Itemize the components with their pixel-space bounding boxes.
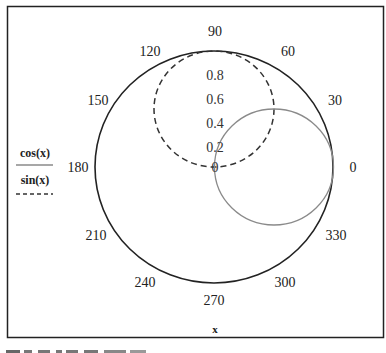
angle-tick: 90: [208, 24, 222, 39]
radial-tick: 0.6: [206, 92, 224, 107]
angle-tick: 0: [350, 160, 357, 175]
cos-series-curve: [215, 109, 334, 225]
polar-chart: 0.8 0.6 0.4 0.2 0 90 120 60 150 30 180 0…: [0, 0, 386, 353]
radial-tick: 0.8: [206, 68, 224, 83]
angle-tick: 150: [88, 93, 109, 108]
angle-tick: 30: [328, 93, 342, 108]
legend-label-cos: cos(x): [20, 146, 50, 160]
radial-tick: 0.4: [206, 116, 224, 131]
radial-tick: 0.2: [206, 140, 224, 155]
angle-tick: 240: [135, 275, 156, 290]
legend-label-sin: sin(x): [21, 173, 50, 187]
angle-tick: 120: [140, 44, 161, 59]
plot-frame: [8, 7, 384, 338]
angle-tick: 60: [281, 44, 295, 59]
legend: cos(x) sin(x): [16, 146, 53, 194]
angle-tick: 300: [275, 275, 296, 290]
angle-tick: 210: [86, 228, 107, 243]
angle-tick: 330: [326, 228, 347, 243]
radial-tick: 0: [212, 160, 219, 175]
angle-tick: 180: [68, 160, 89, 175]
polar-chart-figure: 0.8 0.6 0.4 0.2 0 90 120 60 150 30 180 0…: [0, 0, 386, 353]
x-axis-label: x: [212, 323, 218, 335]
angle-tick: 270: [204, 293, 225, 308]
